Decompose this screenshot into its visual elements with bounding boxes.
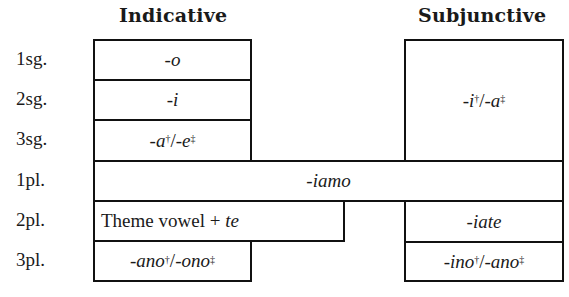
- dagger-mark: †: [165, 133, 170, 144]
- row-label-2pl: 2pl.: [16, 200, 45, 240]
- indicative-1sg-ending: -o: [165, 49, 181, 71]
- indicative-3pl-ending-a: -ano: [130, 250, 165, 272]
- row-label-3sg: 3sg.: [16, 119, 47, 159]
- row-label-1pl: 1pl.: [16, 160, 45, 200]
- subjunctive-heading: Subjunctive: [418, 4, 546, 26]
- indicative-3pl-ending-b: -ono: [175, 250, 210, 272]
- shared-1pl-cell: -iamo: [93, 160, 564, 202]
- row-label-2sg: 2sg.: [16, 79, 47, 119]
- indicative-heading: Indicative: [119, 4, 227, 26]
- indicative-3pl-cell: -ano†/-ono‡: [93, 240, 252, 282]
- indicative-3sg-ending-a: -a: [150, 130, 166, 152]
- indicative-2sg-ending: -i: [167, 89, 179, 111]
- row-label-1sg: 1sg.: [16, 39, 47, 79]
- double-dagger-mark: ‡: [210, 254, 215, 265]
- subjunctive-sg-ending-a: -i: [463, 90, 475, 112]
- subjunctive-sg-ending-b: -a: [485, 90, 501, 112]
- dagger-mark: †: [474, 93, 479, 104]
- indicative-1sg-cell: -o: [93, 39, 252, 81]
- subjunctive-3pl-ending-a: -ino: [444, 251, 475, 273]
- double-dagger-mark: ‡: [519, 254, 524, 265]
- indicative-2pl-text: Theme vowel +: [101, 210, 225, 232]
- indicative-2pl-cell: Theme vowel + te: [93, 200, 345, 242]
- subjunctive-3pl-ending-b: -ano: [485, 251, 520, 273]
- indicative-3sg-cell: -a† / -e‡: [93, 119, 252, 162]
- double-dagger-mark: ‡: [190, 133, 195, 144]
- subjunctive-singular-cell: -i† / -a‡: [404, 39, 564, 162]
- subjunctive-2pl-cell: -iate: [404, 200, 564, 243]
- subjunctive-2pl-ending: -iate: [467, 211, 502, 233]
- indicative-2sg-cell: -i: [93, 79, 252, 121]
- indicative-3sg-ending-b: -e: [176, 130, 191, 152]
- dagger-mark: †: [474, 254, 479, 265]
- shared-1pl-ending: -iamo: [306, 170, 350, 192]
- dagger-mark: †: [165, 254, 170, 265]
- row-label-3pl: 3pl.: [16, 240, 45, 280]
- double-dagger-mark: ‡: [500, 93, 505, 104]
- indicative-2pl-italic: te: [225, 210, 239, 232]
- subjunctive-3pl-cell: -ino† / -ano‡: [404, 241, 564, 282]
